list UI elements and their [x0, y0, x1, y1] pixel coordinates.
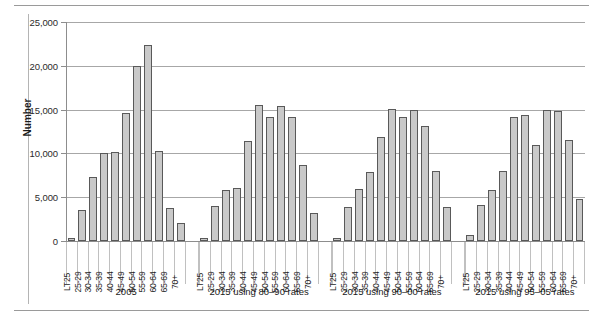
bar-slot[interactable]	[308, 22, 319, 241]
bar[interactable]	[266, 117, 274, 241]
bar[interactable]	[355, 189, 363, 241]
bar[interactable]	[144, 45, 152, 241]
group-label-spacer	[186, 286, 199, 302]
y-tick-label: 15,000	[30, 104, 58, 115]
bar[interactable]	[233, 188, 241, 241]
bar-slot[interactable]	[88, 22, 99, 241]
bar-slot[interactable]	[508, 22, 519, 241]
group-label: 2005	[66, 286, 186, 302]
bar[interactable]	[443, 207, 451, 241]
bar-slot[interactable]	[132, 22, 143, 241]
bar-slot[interactable]	[386, 22, 397, 241]
bar[interactable]	[466, 235, 474, 241]
bar[interactable]	[399, 117, 407, 241]
bar[interactable]	[344, 207, 352, 241]
bar[interactable]	[166, 208, 174, 241]
bar-slot[interactable]	[221, 22, 232, 241]
bar-slot[interactable]	[487, 22, 498, 241]
bar[interactable]	[565, 140, 573, 241]
chart-figure: Number 25,00020,00015,00010,0005,0000 LT…	[0, 0, 603, 319]
bar-slot[interactable]	[419, 22, 430, 241]
bar[interactable]	[366, 172, 374, 241]
bar-slot[interactable]	[66, 22, 77, 241]
group-labels-row: 20052015 using 80–90 rates2015 using 90–…	[66, 286, 585, 302]
bar-slot[interactable]	[343, 22, 354, 241]
bar-slot[interactable]	[563, 22, 574, 241]
bar-slot[interactable]	[376, 22, 387, 241]
bar[interactable]	[499, 171, 507, 241]
category-axis: LT2525-2930-3435-3940-4445-4950-5455-596…	[66, 241, 585, 284]
bar-slot[interactable]	[397, 22, 408, 241]
bar[interactable]	[377, 137, 385, 241]
bar-slot[interactable]	[265, 22, 276, 241]
bar[interactable]	[133, 66, 141, 241]
bar[interactable]	[477, 205, 485, 241]
bar-slot[interactable]	[175, 22, 186, 241]
bar-slot[interactable]	[164, 22, 175, 241]
bar-slot[interactable]	[210, 22, 221, 241]
bar-slot[interactable]	[232, 22, 243, 241]
group-label: 2015 using 80–90 rates	[199, 286, 319, 302]
bar-slot[interactable]	[541, 22, 552, 241]
bar-slot[interactable]	[243, 22, 254, 241]
bar[interactable]	[244, 141, 252, 241]
bar-slot[interactable]	[441, 22, 452, 241]
bar[interactable]	[89, 177, 97, 241]
bar-slot[interactable]	[408, 22, 419, 241]
bar-slot[interactable]	[77, 22, 88, 241]
y-tick-label: 20,000	[30, 60, 58, 71]
bar[interactable]	[155, 151, 163, 241]
bar[interactable]	[410, 110, 418, 241]
bar-slot[interactable]	[297, 22, 308, 241]
bar[interactable]	[211, 206, 219, 241]
bar[interactable]	[310, 213, 318, 241]
bar-slot[interactable]	[465, 22, 476, 241]
bar-slot[interactable]	[332, 22, 343, 241]
bar-slot[interactable]	[574, 22, 585, 241]
bar[interactable]	[554, 111, 562, 241]
bar-slot[interactable]	[476, 22, 487, 241]
bar-slot[interactable]	[110, 22, 121, 241]
bar-slot[interactable]	[286, 22, 297, 241]
bar[interactable]	[78, 210, 86, 241]
bar[interactable]	[388, 109, 396, 241]
bar-slot[interactable]	[121, 22, 132, 241]
bar[interactable]	[277, 106, 285, 241]
bar-slot[interactable]	[497, 22, 508, 241]
bar-slot[interactable]	[275, 22, 286, 241]
bar[interactable]	[177, 223, 185, 241]
bar[interactable]	[68, 238, 76, 241]
bar[interactable]	[333, 238, 341, 241]
bar[interactable]	[510, 117, 518, 241]
bar[interactable]	[521, 115, 529, 241]
bar[interactable]	[255, 105, 263, 241]
bar-group	[465, 22, 585, 241]
bar[interactable]	[288, 117, 296, 241]
bar-slot[interactable]	[154, 22, 165, 241]
bar-slot[interactable]	[365, 22, 376, 241]
bar[interactable]	[122, 113, 130, 241]
bar-slot[interactable]	[199, 22, 210, 241]
bar[interactable]	[532, 145, 540, 241]
bar-group	[332, 22, 452, 241]
bar[interactable]	[432, 171, 440, 241]
bar-slot[interactable]	[530, 22, 541, 241]
bar-slot[interactable]	[430, 22, 441, 241]
bar[interactable]	[100, 153, 108, 241]
bar-slot[interactable]	[552, 22, 563, 241]
bar[interactable]	[111, 152, 119, 241]
bar[interactable]	[200, 238, 208, 241]
bar-slot[interactable]	[254, 22, 265, 241]
bar[interactable]	[299, 165, 307, 241]
bar[interactable]	[488, 190, 496, 241]
bar-slot[interactable]	[354, 22, 365, 241]
bar-slot[interactable]	[99, 22, 110, 241]
bar-slot[interactable]	[519, 22, 530, 241]
bar[interactable]	[576, 199, 584, 241]
y-tick-label: 5,000	[35, 192, 58, 203]
bar[interactable]	[421, 126, 429, 241]
bar[interactable]	[543, 110, 551, 241]
group-label: 2015 using 95–05 rates	[465, 286, 585, 302]
bar-slot[interactable]	[143, 22, 154, 241]
bar[interactable]	[222, 190, 230, 241]
